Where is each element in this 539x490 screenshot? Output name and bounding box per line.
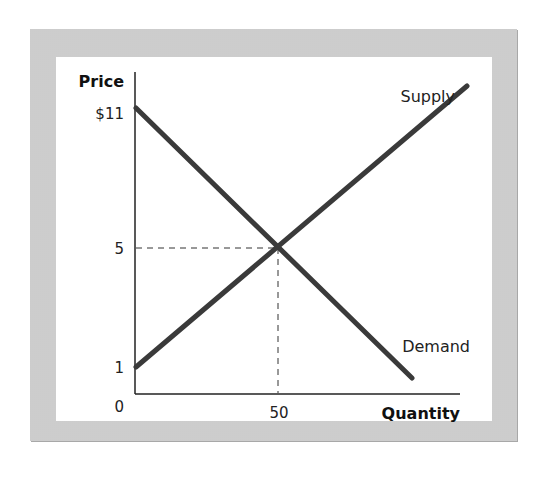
supply-curve (136, 86, 467, 367)
y-axis-label: Price (79, 72, 125, 91)
y-tick-11: $11 (95, 105, 124, 123)
y-tick-5: 5 (114, 240, 124, 258)
demand-curve (136, 108, 412, 378)
x-axis-label: Quantity (382, 404, 461, 423)
supply-label: Supply (400, 87, 455, 106)
supply-demand-chart: Price $11 5 1 0 50 Quantity Supply Deman… (0, 0, 539, 490)
x-tick-50: 50 (269, 404, 288, 422)
y-tick-1: 1 (114, 359, 124, 377)
demand-label: Demand (402, 337, 470, 356)
origin-label: 0 (114, 398, 124, 416)
